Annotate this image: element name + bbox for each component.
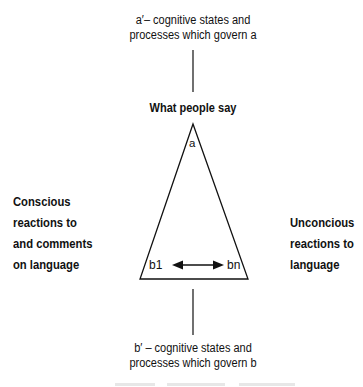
double-arrow-icon <box>172 261 224 270</box>
bottom-label-line2: processes which govern b <box>114 356 272 371</box>
left-label: Conscious reactions to and comments on l… <box>13 192 92 276</box>
top-label-line1: a′– cognitive states and <box>114 13 272 28</box>
bottom-label: b′ – cognitive states and processes whic… <box>114 341 272 371</box>
base-node-bn: bn <box>227 258 240 272</box>
cropped-caption <box>115 380 315 387</box>
base-node-b1: b1 <box>149 258 162 272</box>
left-label-line2: reactions to <box>13 213 92 234</box>
right-label-line3: language <box>290 255 354 276</box>
left-label-line3: and comments <box>13 234 92 255</box>
left-label-line1: Conscious <box>13 192 92 213</box>
right-label-line1: Unconcious <box>290 213 354 234</box>
right-label-line2: reactions to <box>290 234 354 255</box>
left-label-line4: on language <box>13 255 92 276</box>
top-label: a′– cognitive states and processes which… <box>114 13 272 43</box>
right-label: Unconcious reactions to language <box>290 213 354 276</box>
top-label-line2: processes which govern a <box>114 28 272 43</box>
apex-title: What people say <box>127 101 259 116</box>
apex-node-a: a <box>189 137 195 149</box>
bottom-label-line1: b′ – cognitive states and <box>114 341 272 356</box>
